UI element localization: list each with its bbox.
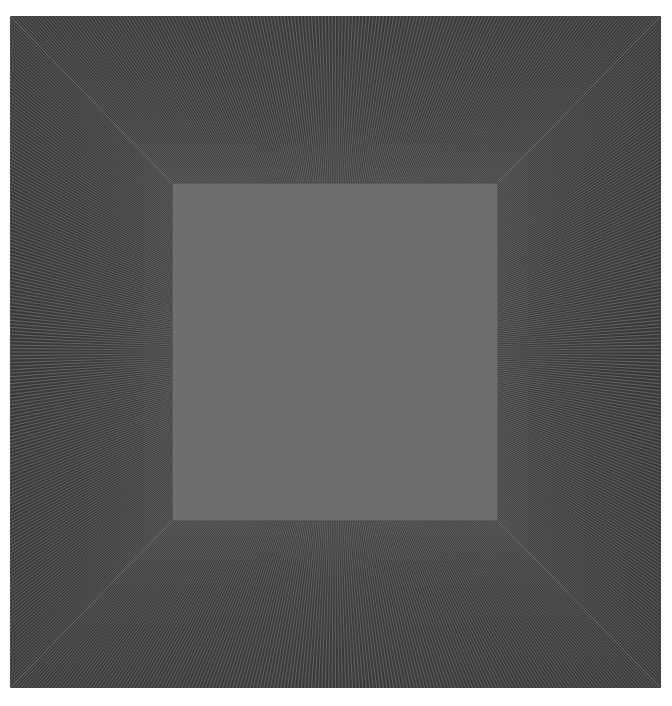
ray-line: [335, 16, 336, 183]
inner-gray-square: [172, 183, 498, 521]
artwork-canvas: [0, 0, 672, 706]
ray-line: [335, 521, 336, 688]
